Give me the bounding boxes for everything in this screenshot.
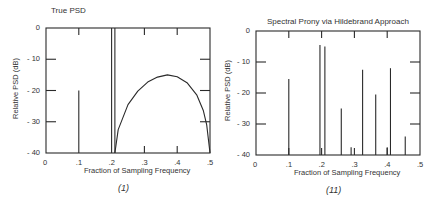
x-tick-label: .1 bbox=[286, 160, 292, 169]
y-axis-label: Relative PSD (dB) bbox=[11, 54, 20, 124]
x-tick-label: .5 bbox=[417, 160, 423, 169]
x-tick-label: .2 bbox=[109, 158, 115, 167]
panel-caption: (1) bbox=[118, 183, 129, 193]
y-tick-label: - 40 bbox=[237, 150, 250, 159]
x-tick-label: .3 bbox=[141, 158, 147, 167]
x-axis-label: Fraction of Sampling Frequency bbox=[294, 168, 400, 177]
y-tick-label: - 30 bbox=[237, 119, 250, 128]
y-tick-label: 0 bbox=[246, 26, 250, 35]
plot-frame bbox=[256, 31, 420, 155]
x-tick-label: .3 bbox=[351, 160, 357, 169]
y-tick-label: - 40 bbox=[27, 148, 40, 157]
y-tick-label: - 30 bbox=[27, 117, 40, 126]
y-axis-label: Relative PSD (dB) bbox=[223, 56, 232, 126]
x-tick-label: 0 bbox=[253, 160, 257, 169]
plot-area-true-psd bbox=[0, 0, 214, 208]
x-tick-label: .4 bbox=[384, 160, 390, 169]
x-tick-label: 0 bbox=[43, 158, 47, 167]
plot-frame bbox=[46, 28, 210, 153]
x-tick-label: .1 bbox=[76, 158, 82, 167]
y-tick-label: 0 bbox=[36, 23, 40, 32]
panel-true-psd: True PSD Relative PSD (dB) Fraction of S… bbox=[0, 0, 214, 208]
x-tick-label: .2 bbox=[319, 160, 325, 169]
y-tick-label: - 10 bbox=[27, 54, 40, 63]
x-tick-label: .5 bbox=[207, 158, 213, 167]
x-tick-label: .4 bbox=[174, 158, 180, 167]
panel-spectral-prony: Spectral Prony via Hildebrand Approach R… bbox=[214, 0, 428, 208]
y-tick-label: - 20 bbox=[237, 88, 250, 97]
panel-caption: (11) bbox=[326, 185, 341, 195]
psd-curve bbox=[115, 75, 210, 153]
x-axis-label: Fraction of Sampling Frequency bbox=[84, 166, 190, 175]
y-tick-label: - 20 bbox=[27, 86, 40, 95]
y-tick-label: - 10 bbox=[237, 57, 250, 66]
